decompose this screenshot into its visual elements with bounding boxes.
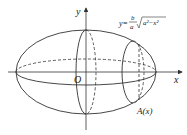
svg-text:y=: y= — [118, 19, 128, 28]
svg-text:a: a — [130, 23, 134, 31]
cross-section-label: A(x) — [136, 106, 153, 116]
curve-equation: y= b a a²−x² — [118, 14, 166, 31]
svg-text:a²−x²: a²−x² — [143, 19, 159, 27]
svg-text:b: b — [131, 14, 135, 22]
x-axis-label: x — [173, 74, 179, 85]
ellipsoid-diagram: y x O A(x) y= b a a²−x² — [0, 0, 187, 135]
origin-label: O — [74, 74, 81, 85]
y-axis-label: y — [75, 6, 81, 17]
